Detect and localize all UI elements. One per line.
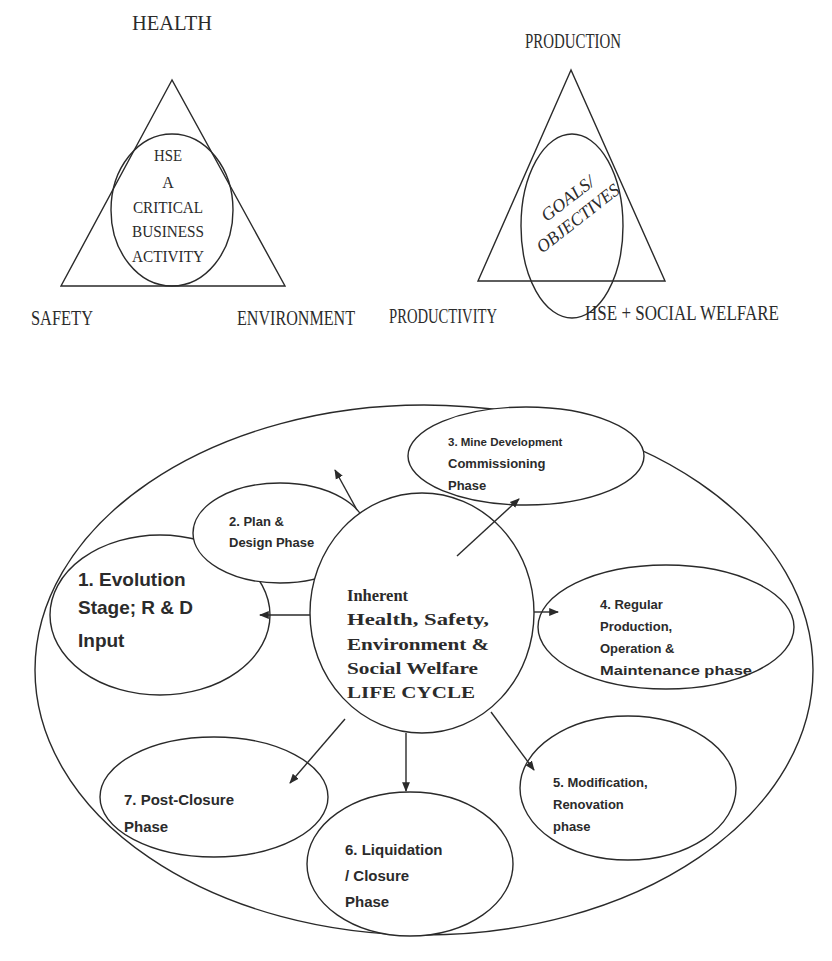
phase-6-ellipse bbox=[307, 792, 513, 936]
hse-center-line-5: ACTIVITY bbox=[132, 248, 204, 265]
phase-1-line-3: Input bbox=[78, 630, 125, 651]
phase-4-line-1: 4. Regular bbox=[600, 597, 663, 612]
phase-5-line-3: phase bbox=[553, 819, 591, 834]
phase-6-line-2: / Closure bbox=[345, 867, 409, 884]
label-health: HEALTH bbox=[132, 11, 212, 35]
phase-2-line-2: Design Phase bbox=[229, 535, 314, 550]
center-line-4: Social Welfare bbox=[347, 659, 478, 678]
phase-5-line-2: Renovation bbox=[553, 797, 624, 812]
phase-4-line-3: Operation & bbox=[600, 641, 674, 656]
phase-1-line-1: 1. Evolution bbox=[78, 569, 186, 590]
diagram-canvas: HEALTH SAFETY ENVIRONMENT HSE A CRITICAL… bbox=[0, 0, 832, 961]
hse-center-line-3: CRITICAL bbox=[133, 199, 203, 216]
phase-3-line-3: Phase bbox=[448, 478, 486, 493]
production-triangle bbox=[478, 70, 665, 281]
phase-3-line-1: 3. Mine Development bbox=[448, 436, 563, 448]
arrow-to-phase-5 bbox=[491, 712, 534, 770]
hse-center-line-1: HSE bbox=[154, 147, 182, 164]
production-triangle-figure: PRODUCTION PRODUCTIVITY HSE + SOCIAL WEL… bbox=[389, 29, 779, 328]
center-line-1: Inherent bbox=[347, 586, 409, 605]
center-line-3: Environment & bbox=[347, 635, 489, 654]
lifecycle-figure: Inherent Health, Safety, Environment & S… bbox=[35, 405, 813, 936]
phase-4-line-4: Maintenance phase bbox=[600, 663, 752, 678]
phase-6-line-1: 6. Liquidation bbox=[345, 841, 443, 858]
hse-center-line-4: BUSINESS bbox=[132, 223, 204, 240]
hse-triangle-figure: HEALTH SAFETY ENVIRONMENT HSE A CRITICAL… bbox=[31, 11, 355, 330]
phase-1-line-2: Stage; R & D bbox=[78, 597, 193, 618]
label-production: PRODUCTION bbox=[525, 29, 621, 53]
hse-center-line-2: A bbox=[162, 174, 174, 191]
phase-5-line-1: 5. Modification, bbox=[553, 775, 648, 790]
label-productivity: PRODUCTIVITY bbox=[389, 304, 497, 328]
center-line-2: Health, Safety, bbox=[347, 610, 489, 629]
phase-7-line-1: 7. Post-Closure bbox=[124, 791, 234, 808]
phase-4-line-2: Production, bbox=[600, 619, 672, 634]
label-hse-social-welfare: HSE + SOCIAL WELFARE bbox=[585, 301, 779, 325]
phase-3-line-2: Commissioning bbox=[448, 456, 546, 471]
center-line-5: LIFE CYCLE bbox=[347, 683, 475, 702]
label-safety: SAFETY bbox=[31, 306, 93, 330]
phase-7-line-2: Phase bbox=[124, 818, 168, 835]
label-environment: ENVIRONMENT bbox=[237, 306, 355, 330]
phase-2-line-1: 2. Plan & bbox=[229, 514, 284, 529]
phase-6-line-3: Phase bbox=[345, 893, 389, 910]
